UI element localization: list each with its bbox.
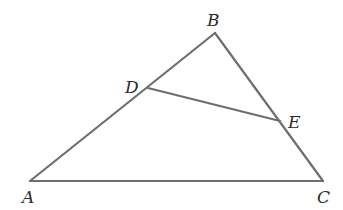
segment-ab	[30, 33, 215, 181]
segment-de	[148, 88, 280, 121]
label-c: C	[317, 187, 330, 207]
label-a: A	[20, 187, 34, 207]
segment-bc	[215, 33, 323, 181]
triangle-diagram: A B C D E	[0, 0, 343, 210]
label-b: B	[206, 10, 220, 30]
label-d: D	[124, 77, 139, 97]
label-e: E	[287, 112, 301, 132]
